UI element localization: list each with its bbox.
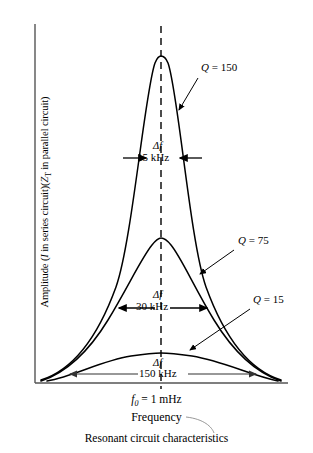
leader-line-q150 bbox=[179, 78, 198, 110]
resonant-circuit-figure: Amplitude (I in series circuit)(ZT in pa… bbox=[0, 0, 313, 453]
y-axis-label-current-symbol: I bbox=[39, 254, 50, 257]
y-axis-label-impedance-symbol: Z bbox=[39, 177, 50, 183]
series-label-q150-symbol: Q bbox=[201, 61, 209, 73]
center-frequency-value: = 1 mHz bbox=[138, 393, 181, 405]
y-axis-label-middle: in series circuit)( bbox=[39, 182, 50, 254]
series-label-q75-symbol: Q bbox=[238, 234, 246, 246]
series-label-q150: Q = 150 bbox=[201, 62, 237, 73]
series-label-q15: Q = 15 bbox=[253, 294, 284, 305]
delta-f-label-q150: Δf bbox=[153, 141, 162, 152]
series-label-q15-value: = 15 bbox=[261, 293, 284, 305]
series-label-q15-symbol: Q bbox=[253, 293, 261, 305]
series-label-q150-value: = 150 bbox=[209, 61, 237, 73]
bandwidth-label-q150: 15 kHz bbox=[137, 152, 169, 163]
bandwidth-label-q15: 150 kHz bbox=[139, 368, 177, 379]
series-label-q75: Q = 75 bbox=[238, 235, 269, 246]
y-axis-label-impedance-subscript: T bbox=[44, 172, 53, 176]
delta-f-label-q75: Δf bbox=[153, 290, 162, 301]
figure-caption: Resonant circuit characteristics bbox=[0, 432, 313, 444]
series-label-q75-value: = 75 bbox=[246, 234, 269, 246]
y-axis-label-suffix: in parallel circuit) bbox=[39, 97, 50, 173]
center-frequency-label: f0 = 1 mHz bbox=[0, 393, 313, 408]
leader-line-q75 bbox=[200, 250, 234, 274]
leader-line-q15 bbox=[190, 309, 250, 350]
y-axis-label: Amplitude (I in series circuit)(ZT in pa… bbox=[39, 77, 53, 327]
x-axis-title: Frequency bbox=[0, 410, 313, 425]
y-axis-label-prefix: Amplitude ( bbox=[39, 258, 50, 308]
bandwidth-label-q75: 30 kHz bbox=[136, 301, 168, 312]
